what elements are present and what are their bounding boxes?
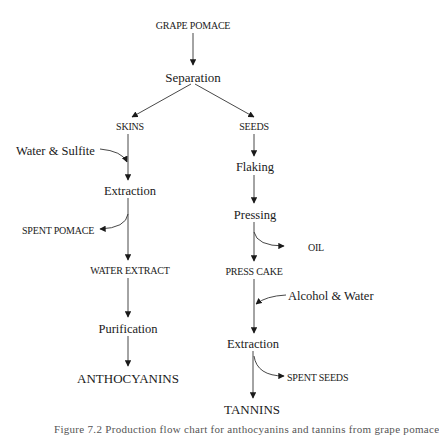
node-extraction-left: Extraction bbox=[104, 185, 156, 198]
arrow-separation-to-seeds bbox=[195, 84, 254, 117]
output-oil: OIL bbox=[308, 243, 324, 253]
arrow-separation-to-skins bbox=[132, 84, 191, 117]
arrow-alcohol-water-in bbox=[256, 295, 286, 304]
node-anthocyanins: ANTHOCYANINS bbox=[77, 372, 179, 385]
arrow-to-oil bbox=[254, 232, 284, 246]
node-flaking: Flaking bbox=[236, 161, 274, 174]
node-press-cake: PRESS CAKE bbox=[225, 267, 282, 277]
arrow-water-sulfite-in bbox=[100, 149, 127, 162]
node-separation: Separation bbox=[165, 71, 221, 84]
figure-caption: Figure 7.2 Production flow chart for ant… bbox=[54, 424, 439, 435]
node-grape-pomace: GRAPE POMACE bbox=[156, 21, 231, 31]
arrow-to-spent-pomace bbox=[100, 214, 128, 229]
output-spent-seeds: SPENT SEEDS bbox=[287, 373, 348, 383]
node-purification: Purification bbox=[98, 323, 157, 336]
node-pressing: Pressing bbox=[234, 209, 276, 222]
input-alcohol-water: Alcohol & Water bbox=[288, 290, 374, 303]
output-spent-pomace: SPENT POMACE bbox=[22, 226, 94, 236]
input-water-sulfite: Water & Sulfite bbox=[16, 145, 95, 158]
node-water-extract: WATER EXTRACT bbox=[90, 266, 169, 276]
node-tannins: TANNINS bbox=[224, 403, 280, 416]
node-skins: SKINS bbox=[116, 122, 144, 132]
arrow-to-spent-seeds bbox=[254, 356, 284, 376]
node-seeds: SEEDS bbox=[239, 122, 269, 132]
node-extraction-right: Extraction bbox=[227, 338, 279, 351]
